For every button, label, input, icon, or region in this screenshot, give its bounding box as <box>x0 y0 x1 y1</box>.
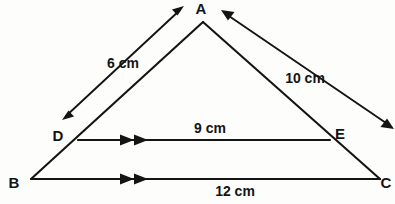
chevron-mark-icon <box>120 174 134 185</box>
measure-label-ad: 6 cm <box>107 55 139 71</box>
de-parallel-mark <box>120 135 148 146</box>
vertex-label-a: A <box>196 0 207 17</box>
chevron-mark-icon <box>120 135 134 146</box>
vertex-label-e: E <box>335 125 345 142</box>
bc-parallel-mark <box>120 174 148 185</box>
measure-label-ac: 10 cm <box>285 70 325 86</box>
measure-label-de: 9 cm <box>194 120 226 136</box>
chevron-mark-icon <box>134 174 148 185</box>
geometry-canvas: A B C D E 6 cm 10 cm 9 cm 12 cm <box>0 0 395 204</box>
vertex-label-d: D <box>53 127 64 144</box>
arrowhead-down-6cm-icon <box>62 111 74 121</box>
geometry-diagram: A B C D E 6 cm 10 cm 9 cm 12 cm <box>0 0 395 204</box>
vertex-label-b: B <box>9 174 20 191</box>
side-ab <box>31 22 203 179</box>
chevron-mark-icon <box>134 135 148 146</box>
measure-label-bc: 12 cm <box>215 183 255 199</box>
vertex-label-c: C <box>381 174 392 191</box>
arrowhead-up-6cm-icon <box>172 6 184 16</box>
